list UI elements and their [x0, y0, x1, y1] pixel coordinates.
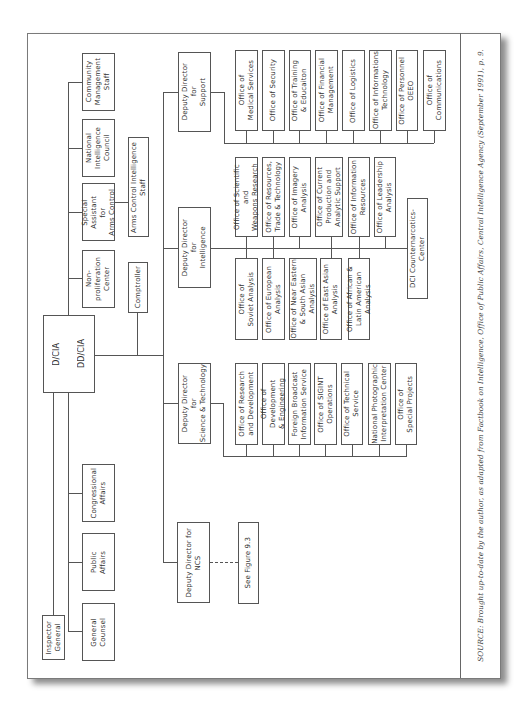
intel-office-label: Office of Near Eastern & South Asian Ana…	[290, 259, 317, 338]
st-office-label: Office of SIGINT Operations	[317, 376, 335, 433]
intel-office-upper: Office of Scientific and Weapons Researc…	[235, 157, 258, 237]
st-office-label: Office of Research and Development	[238, 371, 256, 437]
ddcia-label: DD/CIA	[77, 339, 87, 368]
national-intelligence-council-box: National Intelligence Council	[82, 119, 115, 177]
intel-office-label: Office of Imagery Analysis	[291, 166, 309, 228]
support-tick	[246, 131, 247, 143]
st-office: Office of SIGINT Operations	[314, 363, 337, 445]
support-tick	[407, 131, 408, 143]
community-management-staff-label: Community Management Staff	[85, 58, 112, 105]
st-tick	[299, 445, 300, 456]
support-tick	[380, 131, 381, 143]
tick-cms	[68, 82, 82, 83]
intel-tick	[246, 237, 247, 248]
dd-intelligence-label: Deputy Director for Intelligence	[181, 219, 208, 276]
intel-office-lower: Office of African & Latin American Analy…	[348, 258, 370, 340]
comptroller-label: Comptroller	[134, 266, 143, 308]
general-counsel-label: General Counsel	[90, 618, 108, 647]
support-office-label: Office of Communications	[426, 60, 444, 120]
support-office: Office of Logistics	[342, 50, 365, 131]
intel-office-label: Office of Leadership Analysis	[376, 161, 394, 233]
support-office-label: Office of Security	[269, 59, 278, 121]
support-office: Office of Medical Services	[235, 50, 258, 131]
intel-tick	[331, 237, 332, 248]
arms-control-intelligence-staff-box: Arms Control Intelligence Staff	[128, 137, 149, 237]
inspector-general-label: Inspector General	[45, 621, 63, 655]
support-office: Office of Training & Educaiton	[289, 50, 311, 131]
st-tick	[325, 445, 326, 456]
tick-ddi	[163, 248, 178, 249]
tick-ddst	[163, 403, 178, 404]
st-office: National Photographic Interpretation Cen…	[368, 363, 391, 445]
congressional-affairs-label: Congressional Affairs	[90, 468, 108, 519]
public-affairs-box: Public Affairs	[82, 533, 115, 591]
intel-tick	[246, 248, 247, 258]
intel-tick	[359, 248, 360, 258]
see-figure-label: See Figure 9.3	[244, 537, 253, 588]
caption-divider	[460, 33, 461, 678]
st-office-label: Office of Special Projects	[397, 376, 415, 433]
ddcia-main-line	[95, 355, 163, 356]
st-bus	[223, 456, 407, 457]
support-office-label: Office of Logistics	[349, 59, 358, 123]
special-assistant-arms-control-label: Special Assistant for Arms Control	[81, 189, 117, 236]
intel-office-upper: Office of Current Production and Analyti…	[315, 157, 343, 237]
st-tick	[273, 445, 274, 456]
intel-tick	[299, 237, 300, 248]
counternarcotics-center-label: DCI Counternarcotics-Center	[409, 199, 427, 298]
tick-ca	[68, 493, 82, 494]
intel-office-label: Office of Scientific and Weapons Researc…	[233, 158, 260, 236]
support-bus	[224, 143, 434, 144]
tick-ddncs	[163, 562, 178, 563]
intel-office-label: Office of East Asian Analysis	[322, 264, 340, 334]
intel-office-upper: Office of Imagery Analysis	[289, 157, 311, 237]
support-office: Office of Security	[262, 50, 285, 131]
dd-ncs-label: Deputy Director for NCS	[185, 528, 203, 598]
st-tick	[352, 445, 353, 456]
nonproliferation-center-label: Non- proliferation Center	[85, 257, 112, 301]
intel-office-lower: Office of European Analysis	[262, 258, 285, 340]
intel-office-upper: Office of Leadership Analysis	[374, 157, 396, 237]
st-tick	[246, 445, 247, 456]
source-caption-text: SOURCE: Brought up-to-date by the author…	[476, 49, 485, 662]
ncs-dashed-link	[210, 562, 238, 563]
inspector-general-box: Inspector General	[42, 615, 65, 660]
intel-tick	[359, 237, 360, 248]
support-link	[211, 92, 224, 93]
st-tick	[379, 445, 380, 456]
support-tick	[353, 131, 354, 143]
st-office: Office of Special Projects	[395, 363, 417, 445]
general-counsel-box: General Counsel	[82, 603, 115, 661]
support-office-label: Office of Financial Management	[318, 58, 336, 122]
dd-science-technology-box: Deputy Director for Science & Technology	[178, 363, 211, 444]
st-office-label: Foreign Broadcast Information Service	[291, 369, 309, 440]
st-office: Office of Development & Engineering	[262, 363, 285, 445]
intel-tick	[273, 248, 274, 258]
intel-tick	[385, 237, 386, 248]
intel-office-lower: Office of East Asian Analysis	[320, 258, 342, 340]
congressional-affairs-box: Congressional Affairs	[82, 464, 115, 522]
intel-office-label: Office of Resources, Trade & Technology	[265, 161, 283, 233]
intel-tick	[331, 248, 332, 258]
see-figure-box: See Figure 9.3	[238, 522, 259, 604]
comptroller-box: Comptroller	[128, 262, 148, 313]
intel-office-lower: Office of Near Eastern & South Asian Ana…	[289, 258, 317, 340]
st-office: Office of Research and Development	[235, 363, 258, 445]
source-caption: SOURCE: Brought up-to-date by the author…	[466, 40, 494, 670]
dd-intelligence-box: Deputy Director for Intelligence	[178, 207, 211, 288]
intel-office-label: Office of Information Resources	[350, 160, 368, 234]
support-tick	[434, 131, 435, 143]
intel-bus	[211, 248, 407, 249]
st-tick	[406, 445, 407, 456]
tick-nic	[68, 148, 82, 149]
support-office: Office of Personnel OEEO	[396, 50, 418, 131]
st-office: Office of Technical Service	[341, 363, 363, 445]
support-tick	[273, 131, 274, 143]
support-tick	[326, 131, 327, 143]
dd-support-box: Deputy Director for Support	[178, 52, 211, 132]
support-drop	[224, 92, 225, 143]
national-intelligence-council-label: National Intelligence Council	[85, 127, 112, 169]
dcia-label: D/CIA	[52, 343, 62, 366]
tick-gc	[68, 631, 82, 632]
st-drop	[223, 403, 224, 456]
